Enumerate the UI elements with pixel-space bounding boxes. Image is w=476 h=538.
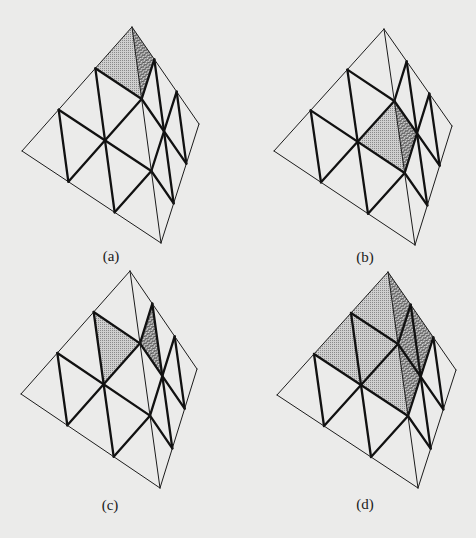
right-grid-line xyxy=(154,59,173,203)
left-grid-line xyxy=(59,110,69,182)
left-grid-line xyxy=(115,171,152,212)
left-grid-line xyxy=(368,173,405,214)
right-grid-line xyxy=(394,61,406,101)
edge xyxy=(22,27,132,151)
left-grid-line xyxy=(57,353,67,425)
left-grid-line xyxy=(68,99,141,182)
tetrahedron-figure: (a) (b) (c) (d) xyxy=(0,0,476,538)
edge xyxy=(415,126,452,245)
panel-b xyxy=(274,29,452,245)
panel-label-a: (a) xyxy=(103,248,120,265)
panel-label-b: (b) xyxy=(356,249,374,266)
right-grid-line xyxy=(152,304,172,449)
edge xyxy=(130,271,197,369)
left-grid-line xyxy=(311,110,321,182)
edge xyxy=(418,370,456,488)
left-grid-line xyxy=(347,70,394,101)
shared-edge xyxy=(130,271,160,488)
edge xyxy=(161,124,199,243)
figure-canvas xyxy=(0,0,476,538)
panel-c xyxy=(21,271,197,488)
edge xyxy=(160,369,197,488)
panel-d xyxy=(277,272,456,488)
left-grid-line xyxy=(314,354,324,426)
left-grid-line xyxy=(371,416,408,457)
panel-label-d: (d) xyxy=(356,496,374,513)
panel-label-c: (c) xyxy=(102,497,119,514)
dotted-region xyxy=(94,312,140,384)
panel-a xyxy=(22,27,199,243)
left-grid-line xyxy=(114,416,150,457)
